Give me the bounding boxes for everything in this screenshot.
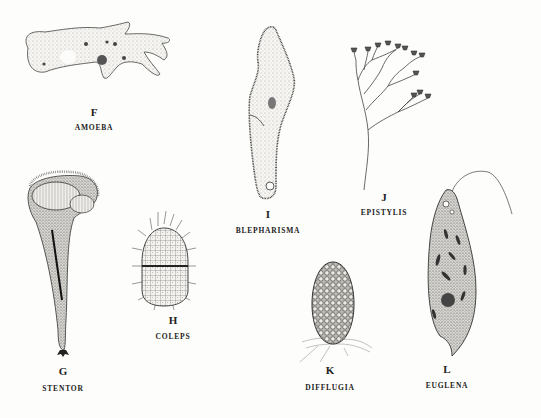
stentor-figure: [28, 172, 98, 357]
figure-letter-h: H: [133, 314, 213, 326]
blepharisma-figure: [249, 27, 294, 199]
figure-name-euglena: EUGLENA: [392, 381, 502, 390]
figure-letter-l: L: [407, 363, 487, 375]
figure-letter-k: K: [290, 364, 370, 376]
figure-letter-f: F: [54, 106, 134, 118]
figure-name-stentor: STENTOR: [8, 384, 118, 393]
figure-letter-j: J: [344, 191, 424, 203]
amoeba-figure: [26, 22, 170, 78]
euglena-figure: [428, 171, 512, 356]
figure-name-difflugia: DIFFLUGIA: [275, 383, 385, 392]
difflugia-figure: [300, 262, 372, 362]
figure-letter-g: G: [23, 365, 103, 377]
epistylis-figure: [351, 41, 431, 190]
coleps-figure: [132, 211, 196, 310]
figure-name-epistylis: EPISTYLIS: [329, 208, 439, 217]
figure-name-blepharisma: BLEPHARISMA: [213, 226, 323, 235]
figure-letter-i: I: [228, 208, 308, 220]
figure-name-coleps: COLEPS: [118, 332, 228, 341]
figure-name-amoeba: AMOEBA: [39, 123, 149, 132]
